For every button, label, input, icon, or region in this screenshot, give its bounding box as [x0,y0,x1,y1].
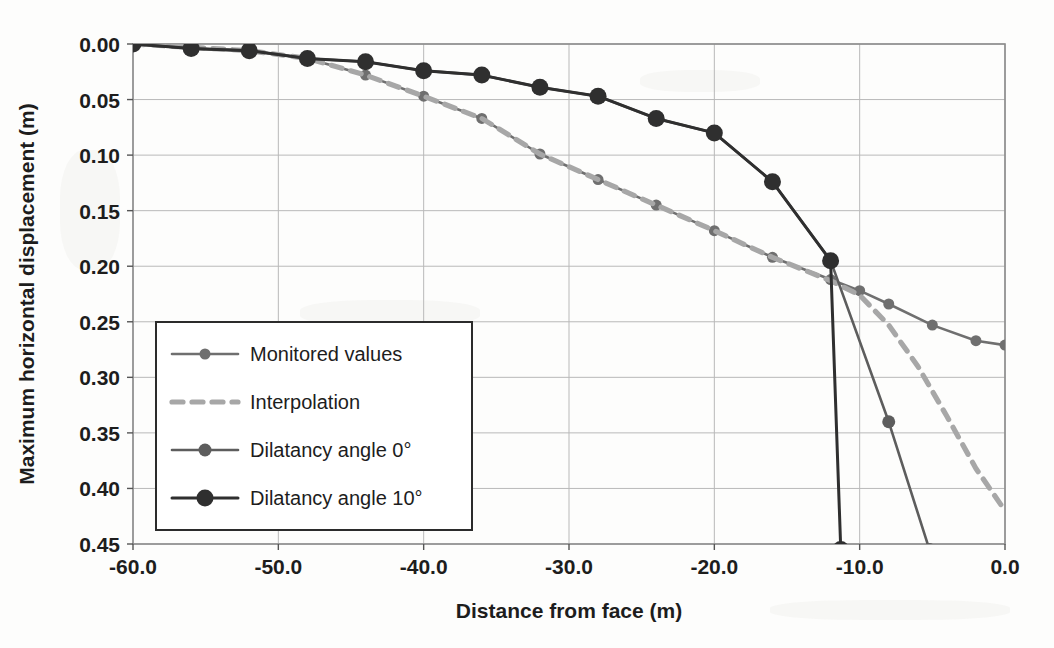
y-tick-label: 0.40 [79,477,120,500]
y-axis-ticks: 0.000.050.100.150.200.250.300.350.400.45 [79,33,133,556]
y-axis-title: Maximum horizontal displacement (m) [15,103,38,485]
x-tick-label: -50.0 [254,555,302,578]
legend-swatch-marker [200,349,211,360]
x-tick-label: 0.0 [990,555,1019,578]
legend-label: Interpolation [250,391,360,413]
data-point [1000,340,1011,351]
data-point [648,110,665,127]
legend-label: Dilatancy angle 10° [250,487,423,509]
y-tick-label: 0.30 [79,366,120,389]
x-axis-title: Distance from face (m) [456,599,682,622]
data-point [706,124,723,141]
y-tick-label: 0.45 [79,533,120,556]
legend-swatch-marker [197,490,214,507]
data-point [927,320,938,331]
x-tick-label: -40.0 [400,555,448,578]
legend-label: Dilatancy angle 0° [250,439,411,461]
y-tick-label: 0.10 [79,144,120,167]
y-tick-label: 0.35 [79,422,120,445]
x-axis-ticks: -60.0-50.0-40.0-30.0-20.0-10.00.0 [109,544,1020,578]
legend-label: Monitored values [250,343,402,365]
data-point [590,88,607,105]
data-point [882,415,895,428]
y-tick-label: 0.25 [79,311,120,334]
x-tick-label: -20.0 [690,555,738,578]
data-point [473,67,490,84]
data-point [299,50,316,67]
data-point [970,335,981,346]
y-tick-label: 0.15 [79,200,120,223]
x-tick-label: -60.0 [109,555,157,578]
data-point [822,252,839,269]
data-point [764,173,781,190]
x-tick-label: -10.0 [836,555,884,578]
y-tick-label: 0.20 [79,255,120,278]
data-point [357,53,374,70]
data-point [241,42,258,59]
figure-canvas: -60.0-50.0-40.0-30.0-20.0-10.00.0 0.000.… [0,0,1054,648]
data-point [531,79,548,96]
data-point [183,40,200,57]
chart-svg: -60.0-50.0-40.0-30.0-20.0-10.00.0 0.000.… [0,0,1054,648]
data-point [923,543,936,556]
x-tick-label: -30.0 [545,555,593,578]
y-tick-label: 0.05 [79,89,120,112]
data-point [415,62,432,79]
y-tick-label: 0.00 [79,33,120,56]
chart-legend: Monitored valuesInterpolationDilatancy a… [156,322,472,530]
legend-swatch-marker [199,444,212,457]
data-point [883,299,894,310]
